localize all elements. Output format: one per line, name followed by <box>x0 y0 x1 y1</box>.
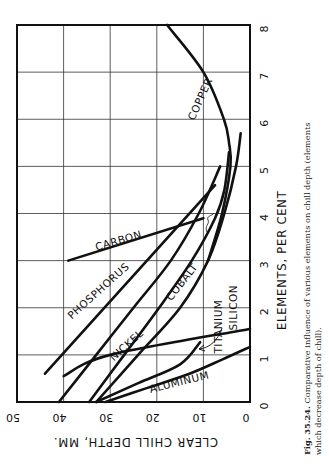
percent-tick-label: 6 <box>258 120 271 127</box>
percent-tick-label: 1 <box>258 355 271 362</box>
percent-tick-label: 8 <box>258 26 271 33</box>
depth-tick-label: 30 <box>99 411 113 424</box>
depth-axis-label: CLEAR CHILL DEPTH, MM. <box>53 435 218 449</box>
percent-tick-label: 0 <box>258 403 271 410</box>
depth-axis-ticks: 01020304050 <box>6 411 250 424</box>
percent-tick-label: 4 <box>258 214 271 221</box>
chill-depth-chart: PHOSPHORUSCARBONNICKELCOBALTTITANIUMSILI… <box>0 0 329 464</box>
label-titanium: TITANIUM <box>212 300 224 355</box>
percent-tick-label: 5 <box>258 167 271 174</box>
label-cobalt: COBALT <box>163 261 199 303</box>
label-carbon: CARBON <box>94 228 143 253</box>
percent-tick-label: 7 <box>258 73 271 80</box>
depth-tick-label: 40 <box>53 411 67 424</box>
depth-tick-label: 20 <box>146 411 160 424</box>
depth-tick-label: 0 <box>243 411 250 424</box>
percent-tick-label: 3 <box>258 261 271 268</box>
percent-tick-label: 2 <box>258 308 271 315</box>
label-silicon: SILICON <box>227 285 239 331</box>
percent-axis-label: ELEMENTS, PER CENT <box>275 190 289 330</box>
percent-axis-ticks: 012345678 <box>258 26 271 410</box>
depth-tick-label: 10 <box>192 411 206 424</box>
label-aluminum: ALUMINUM <box>148 368 210 394</box>
label-copper: COPPER <box>185 76 214 122</box>
depth-tick-label: 50 <box>6 411 20 424</box>
